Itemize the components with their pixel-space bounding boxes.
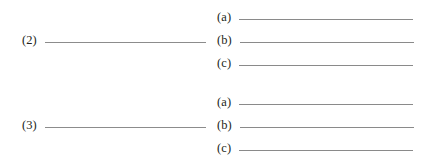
subitem-label-3b: (b) [217,119,232,132]
item-label-2: (2) [22,34,37,47]
subitem-label-3a: (a) [217,96,231,109]
answer-row-2c[interactable]: (c) [217,57,413,70]
answer-row-3a[interactable]: (a) [217,96,413,109]
answer-blank-2[interactable] [45,42,206,43]
answer-blank-3[interactable] [45,127,206,128]
subitem-label-2b: (b) [217,34,232,47]
answer-blank-3b[interactable] [240,127,414,128]
answer-row-2b[interactable]: (b) [217,34,414,47]
subitem-label-3c: (c) [217,142,231,155]
item-label-3: (3) [22,119,37,132]
subitem-label-2c: (c) [217,57,231,70]
answer-blank-2b[interactable] [240,42,414,43]
answer-row-main-2[interactable]: (2) [22,34,206,47]
answer-blank-2c[interactable] [239,65,413,66]
answer-row-3c[interactable]: (c) [217,142,413,155]
answer-row-3b[interactable]: (b) [217,119,414,132]
answer-row-2a[interactable]: (a) [217,11,413,24]
answer-blank-2a[interactable] [239,19,413,20]
answer-blank-3c[interactable] [239,150,413,151]
subitem-label-2a: (a) [217,11,231,24]
answer-blank-3a[interactable] [239,104,413,105]
answer-row-main-3[interactable]: (3) [22,119,206,132]
worksheet-page: (2) (a) (b) (c) (3) (a) (b) [0,0,436,161]
